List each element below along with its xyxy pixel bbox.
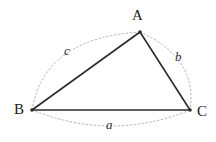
vertex-label-c: C [197, 104, 207, 119]
vertex-label-a: A [132, 8, 143, 23]
triangle-edge-c-BA [32, 32, 140, 110]
side-label-c: c [64, 44, 70, 57]
vertex-label-b: B [14, 102, 24, 117]
triangle-figure: A B C a b c [0, 0, 216, 142]
side-label-a: a [106, 118, 113, 131]
vertex-dot-B [30, 108, 34, 112]
vertex-dot-A [138, 30, 142, 34]
triangle-edge-b-AC [140, 32, 190, 110]
side-label-b: b [175, 50, 182, 63]
vertex-dot-C [188, 108, 192, 112]
